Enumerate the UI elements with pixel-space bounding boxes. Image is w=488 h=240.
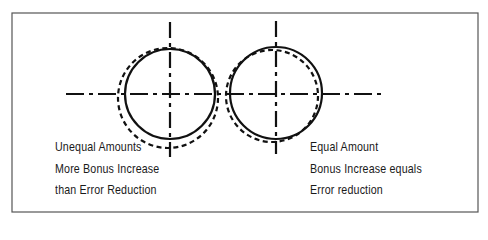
left-caption-line-1: Unequal Amounts — [55, 136, 159, 158]
right-caption-line-3: Error reduction — [310, 179, 422, 201]
left-dashed-circle — [118, 48, 218, 148]
left-caption-line-3: than Error Reduction — [55, 179, 159, 201]
right-example-graphic — [226, 21, 322, 154]
left-caption-line-2: More Bonus Increase — [55, 158, 159, 180]
right-caption-line-1: Equal Amount — [310, 136, 422, 158]
right-caption: Equal Amount Bonus Increase equals Error… — [310, 136, 422, 201]
left-caption: Unequal Amounts More Bonus Increase than… — [55, 136, 159, 201]
right-caption-line-2: Bonus Increase equals — [310, 158, 422, 180]
